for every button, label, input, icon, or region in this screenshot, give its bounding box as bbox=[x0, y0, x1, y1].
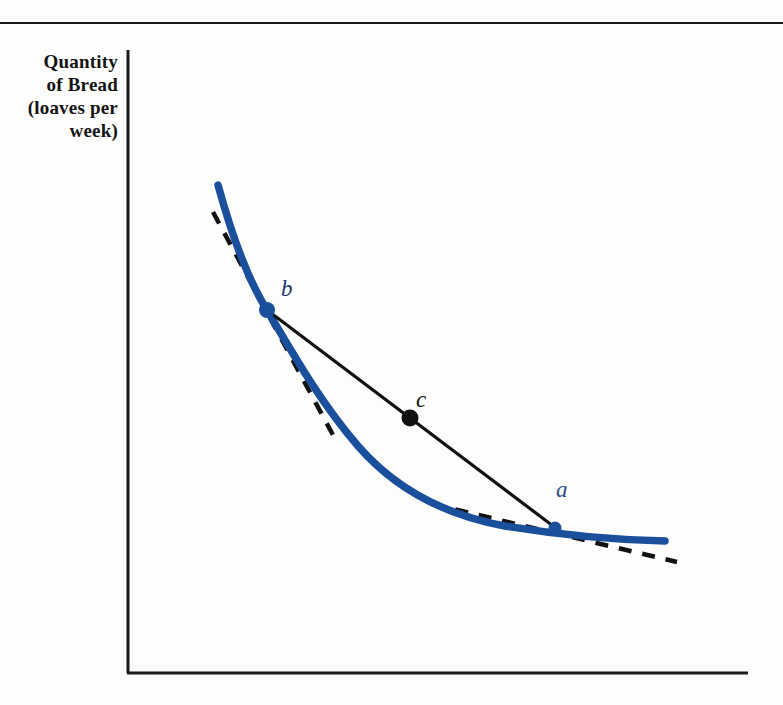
figure-container: Quantity of Bread (loaves per week) a b … bbox=[0, 0, 783, 705]
point-label-c: c bbox=[416, 388, 426, 411]
point-marker-c bbox=[402, 410, 419, 427]
point-label-a: a bbox=[556, 478, 568, 501]
point-marker-a bbox=[549, 522, 562, 535]
plot-area bbox=[0, 0, 783, 705]
indifference-curve bbox=[218, 185, 665, 541]
point-label-b: b bbox=[281, 277, 293, 300]
point-marker-b bbox=[259, 302, 275, 318]
